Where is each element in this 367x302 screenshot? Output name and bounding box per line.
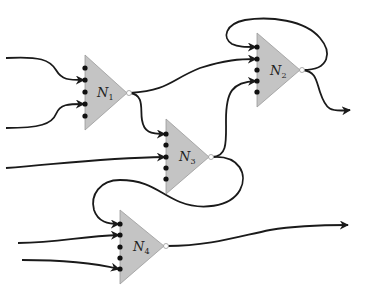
wire-ext-n3-in3: [6, 157, 165, 168]
neuron-n1-output-node: [127, 91, 132, 96]
wire-n1-n2-in2: [130, 59, 256, 93]
neuron-n2: N2: [254, 33, 304, 107]
neuron-n4-output-node: [164, 244, 169, 249]
neuron-n4: N4: [117, 210, 168, 284]
wire-ext-n1-in2: [6, 58, 84, 81]
wire-n2-output: [303, 70, 350, 111]
wire-ext-n4-in2: [18, 235, 119, 243]
neural-network-diagram: N1 N2 N3 N4: [0, 0, 367, 302]
neuron-n3-output-node: [209, 155, 214, 160]
wire-ext-n4-in5: [22, 260, 119, 269]
wire-n3-n2-in4: [212, 81, 256, 157]
wire-ext-n1-in4: [6, 104, 84, 128]
wire-n1-n3-in1: [130, 93, 165, 134]
wire-n4-output: [167, 225, 348, 246]
neuron-n2-output-node: [300, 68, 305, 73]
neuron-n1: N1: [82, 55, 131, 130]
neuron-n3: N3: [163, 119, 213, 194]
